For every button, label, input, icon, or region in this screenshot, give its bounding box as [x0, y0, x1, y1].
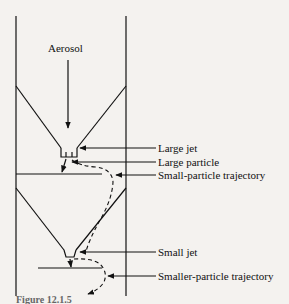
impactor-diagram: Aerosol Large jet Large particle Small-p…: [0, 0, 289, 304]
small-jet-label: Small jet: [158, 246, 197, 258]
large-jet-label: Large jet: [158, 142, 197, 154]
aerosol-label: Aerosol: [48, 42, 83, 54]
small-particle-trajectory-label: Small-particle trajectory: [158, 169, 266, 181]
large-particle-label: Large particle: [158, 156, 219, 168]
lower-impact-path: [70, 259, 71, 267]
figure-caption: Figure 12.1.5: [16, 294, 72, 304]
smaller-particle-trajectory-label: Smaller-particle trajectory: [158, 270, 274, 282]
upper-funnel: [16, 86, 126, 157]
smaller-particle-trajectory-path: [74, 259, 105, 294]
large-particle-path: [62, 159, 66, 172]
